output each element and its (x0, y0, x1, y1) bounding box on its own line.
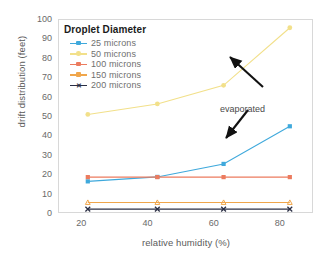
x-tick-label: 40 (132, 218, 162, 228)
chart-figure: drift distribution (feet) 01020304050607… (0, 0, 327, 259)
x-tick-label: 20 (66, 218, 96, 228)
x-tick-label: 80 (265, 218, 295, 228)
x-axis-label: relative humidity (%) (58, 237, 314, 248)
x-axis-ticks: 20406080 (0, 0, 327, 259)
x-tick-label: 60 (199, 218, 229, 228)
